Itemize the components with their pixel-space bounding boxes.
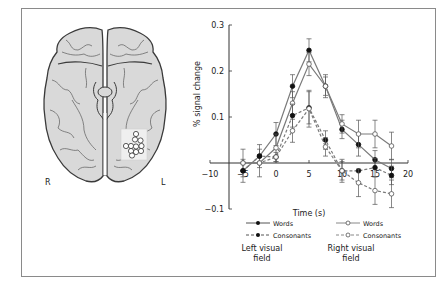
line-chart: −10−505101520−0.10.10.20.3 % signal chan… — [193, 21, 413, 218]
legend-item-words-left: Words — [246, 220, 294, 228]
data-point — [340, 122, 345, 127]
data-point — [307, 48, 312, 53]
data-point — [340, 169, 345, 174]
x-tick-label: 20 — [403, 170, 413, 179]
legend-group-left-line2: field — [253, 254, 270, 263]
legend-group-right-line2: field — [342, 254, 359, 263]
data-point — [373, 165, 378, 170]
x-tick-label: −10 — [202, 170, 219, 179]
y-tick-label: 0.2 — [211, 67, 224, 76]
data-point — [323, 84, 328, 89]
data-point — [290, 84, 295, 89]
data-point — [274, 155, 279, 160]
hemisphere-label-right: R — [45, 178, 51, 187]
legend-item-consonants-right: Consonants — [336, 232, 402, 240]
data-point — [274, 146, 279, 151]
data-point — [389, 192, 394, 197]
data-point — [241, 169, 246, 174]
data-point — [257, 154, 262, 159]
legend-item-words-right: Words — [336, 220, 384, 228]
svg-text:Words: Words — [363, 220, 384, 228]
data-point — [373, 188, 378, 193]
x-tick-label: 5 — [306, 170, 311, 179]
legend-item-consonants-left: Consonants — [246, 232, 312, 240]
y-tick-label: 0.3 — [211, 21, 224, 30]
data-point — [290, 113, 295, 118]
data-point — [356, 180, 361, 185]
data-point — [373, 132, 378, 137]
figure-canvas: R L −10−505101520−0.10.10.20.3 % signal … — [0, 0, 447, 293]
x-tick-label: 0 — [273, 170, 278, 179]
data-point — [241, 161, 246, 166]
legend-group-left-line1: Left visual — [242, 244, 283, 253]
series-1 — [241, 53, 395, 177]
legend-group-right-line1: Right visual — [328, 244, 375, 253]
data-point — [389, 144, 394, 149]
data-point — [290, 129, 295, 134]
data-point — [356, 132, 361, 137]
data-point — [323, 145, 328, 150]
svg-text:Consonants: Consonants — [273, 232, 312, 240]
svg-text:Consonants: Consonants — [363, 232, 402, 240]
series-0 — [241, 39, 395, 183]
data-point — [307, 106, 312, 111]
data-point — [389, 173, 394, 178]
hemisphere-label-left: L — [161, 178, 166, 187]
svg-text:Words: Words — [273, 220, 294, 228]
y-tick-label: 0.1 — [211, 113, 224, 122]
data-point — [257, 161, 262, 166]
brain-outline — [44, 28, 103, 182]
legend: Words Consonants Words Consonants Left v… — [242, 220, 402, 263]
y-tick-label: −0.1 — [205, 205, 224, 214]
y-axis-label: % signal change — [193, 61, 202, 127]
data-point — [307, 62, 312, 67]
series-3 — [241, 90, 394, 207]
brain-diagram: R L — [44, 28, 166, 187]
chart-series — [241, 39, 395, 208]
x-axis-label: Time (s) — [292, 209, 326, 218]
